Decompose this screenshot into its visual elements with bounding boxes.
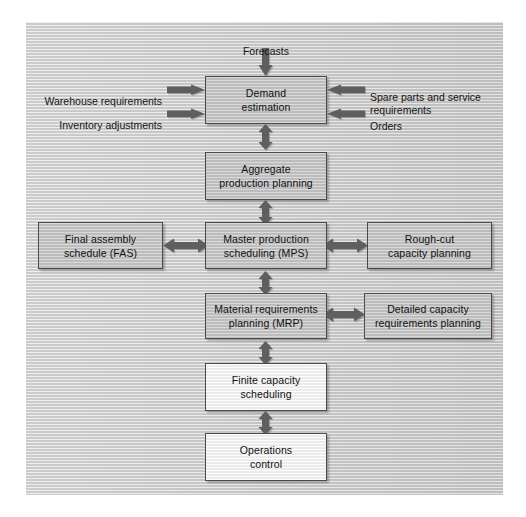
node-detailed-capacity-requirements-planning-label: Detailed capacity requirements planning [371, 302, 485, 330]
node-material-requirements-planning[interactable]: Material requirements planning (MRP) [205, 293, 327, 339]
node-rough-cut-capacity-planning-label: Rough-cut capacity planning [384, 232, 475, 260]
node-finite-capacity-scheduling-label: Finite capacity scheduling [228, 373, 305, 401]
label-orders-text: Orders [370, 120, 402, 132]
node-demand-estimation[interactable]: Demand estimation [205, 76, 327, 124]
label-inventory-adjustments-text: Inventory adjustments [59, 119, 162, 131]
node-master-production-scheduling-label: Master production scheduling (MPS) [219, 232, 313, 260]
node-aggregate-production-planning[interactable]: Aggregate production planning [205, 152, 327, 200]
label-forecasts-text: Forecasts [243, 45, 289, 57]
label-warehouse-requirements: Warehouse requirements [40, 82, 162, 108]
node-demand-estimation-label: Demand estimation [238, 86, 295, 114]
node-detailed-capacity-requirements-planning[interactable]: Detailed capacity requirements planning [364, 293, 492, 339]
node-final-assembly-schedule-label: Final assembly schedule (FAS) [60, 232, 141, 260]
label-forecasts: Forecasts [228, 32, 304, 58]
node-rough-cut-capacity-planning[interactable]: Rough-cut capacity planning [367, 222, 492, 269]
node-operations-control-label: Operations control [236, 443, 296, 471]
node-finite-capacity-scheduling[interactable]: Finite capacity scheduling [205, 363, 327, 411]
node-final-assembly-schedule[interactable]: Final assembly schedule (FAS) [38, 222, 163, 269]
node-master-production-scheduling[interactable]: Master production scheduling (MPS) [205, 222, 327, 269]
node-aggregate-production-planning-label: Aggregate production planning [215, 162, 317, 190]
flowchart-diagram: Forecasts Warehouse requirements Invento… [0, 0, 526, 517]
label-inventory-adjustments: Inventory adjustments [40, 106, 162, 132]
node-operations-control[interactable]: Operations control [205, 433, 327, 481]
label-orders: Orders [370, 107, 500, 133]
node-material-requirements-planning-label: Material requirements planning (MRP) [210, 302, 322, 330]
